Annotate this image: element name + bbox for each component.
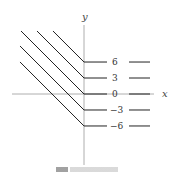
level-label: 6 — [112, 57, 118, 67]
level-label: −3 — [110, 105, 124, 115]
level-curve — [53, 31, 107, 62]
level-label: −6 — [110, 121, 124, 131]
level-label: 0 — [112, 89, 118, 99]
x-axis-label: x — [162, 88, 168, 99]
figure-caption — [56, 167, 118, 172]
y-axis-label: y — [81, 11, 88, 22]
level-label: 3 — [112, 73, 118, 83]
contour-diagram: y x 630−3−6 — [0, 0, 174, 178]
level-curve — [37, 31, 107, 78]
